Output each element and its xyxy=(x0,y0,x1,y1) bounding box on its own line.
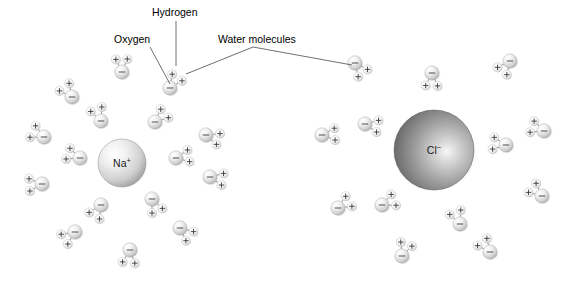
hydration-diagram: Na+Cl− HydrogenOxygenWater molecules xyxy=(0,0,572,287)
water-molecule xyxy=(169,145,196,167)
water-molecule xyxy=(525,117,553,140)
water-molecules-label: Water molecules xyxy=(218,33,296,45)
water-molecule xyxy=(473,234,499,261)
water-molecule xyxy=(348,56,374,82)
water-molecule xyxy=(395,237,418,264)
diagram-canvas: Na+Cl− HydrogenOxygenWater molecules xyxy=(0,0,572,287)
hydrogen-label: Hydrogen xyxy=(152,6,198,18)
oxygen-label: Oxygen xyxy=(114,33,150,45)
water-molecule xyxy=(331,192,358,217)
water-molecule xyxy=(375,190,402,214)
water-molecule xyxy=(24,174,51,196)
water-molecule xyxy=(57,225,85,250)
water-molecules-leader-line xyxy=(186,47,352,74)
water-molecule xyxy=(85,198,111,225)
water-molecule xyxy=(163,70,188,97)
water-molecule xyxy=(111,54,133,80)
water-molecule xyxy=(493,54,519,80)
water-molecule xyxy=(358,116,385,138)
water-molecule xyxy=(25,121,53,146)
water-molecule xyxy=(145,192,169,219)
water-molecule xyxy=(524,179,551,205)
water-molecule xyxy=(55,79,81,106)
water-molecule xyxy=(315,124,341,146)
water-molecule xyxy=(61,144,89,167)
label-leader-lines xyxy=(150,21,352,84)
water-molecule xyxy=(445,205,469,232)
water-molecule xyxy=(118,243,141,269)
water-molecule xyxy=(148,105,174,131)
water-molecule xyxy=(86,102,110,129)
water-molecule xyxy=(488,133,515,155)
water-molecule xyxy=(421,66,443,92)
sodium-ion: Na+ xyxy=(98,139,149,189)
water-molecule xyxy=(199,128,226,150)
water-molecule xyxy=(173,221,200,247)
chloride-ion: Cl− xyxy=(394,110,477,191)
oxygen-leader-line xyxy=(150,47,170,84)
water-molecule xyxy=(203,169,230,191)
annotation-labels: HydrogenOxygenWater molecules xyxy=(114,6,296,45)
